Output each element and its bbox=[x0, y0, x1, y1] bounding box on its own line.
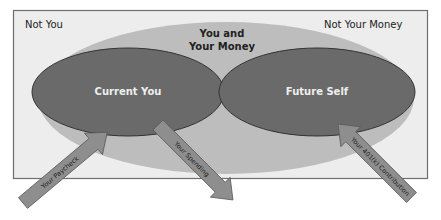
your-money-label: Your Money bbox=[188, 41, 255, 52]
future-self-label: Future Self bbox=[286, 86, 349, 97]
you-and-label: You and bbox=[199, 28, 245, 39]
money-diagram: Not You Not Your Money You and Your Mone… bbox=[0, 0, 441, 220]
not-you-label: Not You bbox=[25, 19, 63, 30]
current-you-label: Current You bbox=[95, 86, 162, 97]
not-your-money-label: Not Your Money bbox=[324, 19, 402, 30]
